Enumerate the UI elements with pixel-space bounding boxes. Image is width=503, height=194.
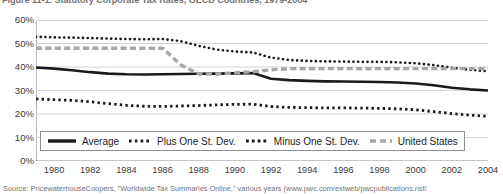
y-tick-label: 40% <box>2 62 34 72</box>
x-tick-label: 1996 <box>323 165 363 175</box>
x-tick-label: 1984 <box>106 165 146 175</box>
legend-item: Average <box>47 136 119 147</box>
x-tick-label: 1992 <box>251 165 291 175</box>
series-line <box>36 67 488 90</box>
x-tick-label: 1986 <box>143 165 183 175</box>
x-tick-label: 1988 <box>179 165 219 175</box>
legend-item: Minus One St. Dev. <box>245 136 360 147</box>
x-tick-label: 2002 <box>432 165 472 175</box>
y-tick-label: 20% <box>2 109 34 119</box>
x-tick-label: 1982 <box>70 165 110 175</box>
x-tick-label: 1998 <box>360 165 400 175</box>
legend-swatch-dotted <box>128 136 152 146</box>
y-tick-label: 30% <box>2 86 34 96</box>
legend-swatch-dashed <box>369 136 393 146</box>
series-line <box>36 37 488 72</box>
legend-swatch-dotted-square <box>245 136 269 146</box>
y-tick-label: 10% <box>2 133 34 143</box>
x-tick-label: 1980 <box>34 165 74 175</box>
legend-label: Minus One St. Dev. <box>274 136 360 147</box>
legend-label: United States <box>398 136 458 147</box>
figure-title: Figure 11-1. Statutory Corporate Tax Rat… <box>2 0 482 5</box>
chart-legend: AveragePlus One St. Dev.Minus One St. De… <box>40 131 465 151</box>
legend-label: Average <box>82 136 119 147</box>
source-note: Source: PricewaterhouseCoopers, "Worldwi… <box>3 184 427 193</box>
x-tick-label: 2004 <box>468 165 503 175</box>
series-line <box>36 48 488 74</box>
x-tick-label: 2000 <box>396 165 436 175</box>
legend-item: United States <box>369 136 458 147</box>
y-tick-label: 50% <box>2 39 34 49</box>
x-tick-label: 1994 <box>287 165 327 175</box>
legend-item: Plus One St. Dev. <box>128 136 236 147</box>
legend-label: Plus One St. Dev. <box>157 136 236 147</box>
y-tick-label: 0% <box>2 156 34 166</box>
y-tick-label: 60% <box>2 15 34 25</box>
legend-swatch-solid <box>47 136 77 146</box>
y-axis-labels: 0%10%20%30%40%50%60% <box>0 0 34 194</box>
x-tick-label: 1990 <box>215 165 255 175</box>
